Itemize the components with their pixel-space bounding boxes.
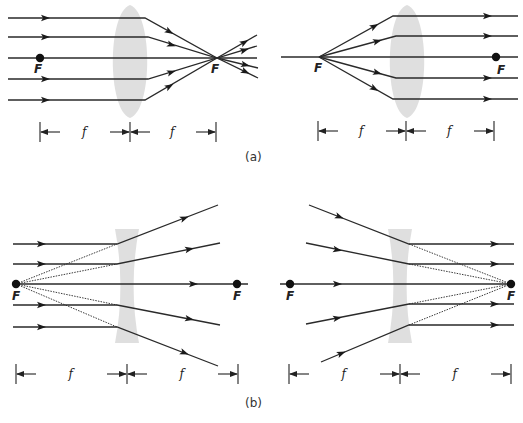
focal-point-dot <box>12 280 20 288</box>
focal-point-label: F <box>34 62 43 76</box>
virtual-extension-line <box>16 264 117 284</box>
arrowhead-icon <box>166 68 176 77</box>
caption-a: (a) <box>245 150 262 164</box>
light-ray <box>321 325 514 362</box>
focal-point-dot <box>492 53 500 61</box>
focal-length-label: f <box>341 367 349 381</box>
focal-length-label: f <box>81 125 89 139</box>
arrowhead-icon <box>369 84 380 94</box>
arrowhead-icon <box>239 46 249 55</box>
virtual-extension-line <box>409 284 511 304</box>
convex-lens <box>113 5 147 118</box>
arrowhead-icon <box>372 69 382 78</box>
focal-point-label: F <box>314 61 323 75</box>
light-ray <box>306 243 514 264</box>
virtual-extension-line <box>16 284 117 305</box>
concave-lens <box>115 229 139 343</box>
focal-length-label: f <box>446 124 454 138</box>
focal-point-dot <box>507 280 515 288</box>
focal-point-dot <box>286 280 294 288</box>
arrowhead-icon <box>372 37 382 46</box>
caption-b: (b) <box>245 396 262 410</box>
focal-point-label: F <box>233 289 242 303</box>
focal-point-dot <box>233 280 241 288</box>
focal-length-label: f <box>68 367 76 381</box>
focal-point-label: F <box>507 289 516 303</box>
arrowhead-icon <box>179 348 190 357</box>
focal-length-label: f <box>179 367 187 381</box>
focal-length-label: f <box>358 124 366 138</box>
light-ray <box>13 243 220 264</box>
light-ray <box>13 305 220 325</box>
lens-ray-diagram: FFFFFFFF ffffffff <box>0 0 523 423</box>
virtual-ray-extensions <box>16 244 511 327</box>
light-ray <box>306 304 514 324</box>
arrowhead-icon <box>179 214 190 223</box>
focal-point-label: F <box>497 63 506 77</box>
virtual-extension-line <box>409 264 511 284</box>
ray-direction-arrows <box>37 13 499 358</box>
light-ray <box>309 205 514 244</box>
arrowhead-icon <box>336 348 347 357</box>
light-ray <box>13 327 218 366</box>
focal-point-label: F <box>286 289 295 303</box>
light-rays <box>8 16 518 366</box>
focal-point-label: F <box>211 62 220 76</box>
focal-points: FFFFFFFF <box>12 53 516 303</box>
arrowhead-icon <box>369 21 380 31</box>
focal-length-dimensions: ffffffff <box>16 121 511 384</box>
convex-lens <box>390 5 424 118</box>
arrowhead-icon <box>334 212 345 221</box>
focal-length-label: f <box>169 125 177 139</box>
arrowhead-icon <box>240 67 251 77</box>
arrowhead-icon <box>240 61 250 69</box>
focal-point-label: F <box>12 289 21 303</box>
focal-point-dot <box>36 54 44 62</box>
arrowhead-icon <box>164 27 175 37</box>
arrowhead-icon <box>239 37 250 47</box>
focal-length-label: f <box>452 367 460 381</box>
light-ray <box>13 205 218 244</box>
lenses <box>113 5 424 343</box>
